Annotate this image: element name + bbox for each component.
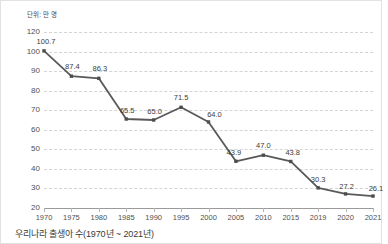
x-axis-tick [154,208,155,212]
gridline [44,52,373,53]
data-point-label: 100.7 [29,38,63,46]
x-axis-tick [181,208,182,212]
data-point-label: 65.0 [138,108,172,116]
x-axis-tick [291,208,292,212]
y-axis-tick-label: 70 [10,106,40,114]
x-axis-tick [318,208,319,212]
data-point-label: 64.0 [198,111,232,119]
x-axis-tick [126,208,127,212]
x-axis-tick [263,208,264,212]
x-axis-tick [44,208,45,212]
y-axis-tick-label: 60 [10,126,40,134]
data-point-label: 71.5 [164,94,198,102]
y-axis-tick-label: 80 [10,87,40,95]
gridline [44,130,373,131]
y-axis-tick-label: 20 [10,204,40,212]
gridline [44,91,373,92]
x-axis-tick [99,208,100,212]
data-point-label: 43.9 [217,149,251,157]
x-axis-tick [209,208,210,212]
gridline [44,149,373,150]
gridline [44,169,373,170]
y-axis-unit-label: 단위: 만 명 [27,9,57,19]
y-axis-labels: 2030405060708090100120 [8,32,40,208]
y-axis-tick-label: 120 [10,28,40,36]
data-point-label: 86.3 [83,65,117,73]
chart-caption: 우리나라 출생아 수(1970년 ~ 2021년) [15,227,154,240]
gridline [44,188,373,189]
y-axis-tick-label: 100 [10,48,40,56]
data-point-label: 26.1 [359,185,388,193]
x-axis-tick [346,208,347,212]
x-axis-tick [71,208,72,212]
data-point-label: 43.8 [276,149,310,157]
y-axis-tick-label: 90 [10,67,40,75]
y-axis-tick-label: 40 [10,165,40,173]
x-axis-tick [236,208,237,212]
y-axis-tick-label: 30 [10,184,40,192]
gridline [44,32,373,33]
x-axis-tick-label: 2021 [353,213,388,222]
x-axis-tick [373,208,374,212]
y-axis-tick-label: 50 [10,145,40,153]
